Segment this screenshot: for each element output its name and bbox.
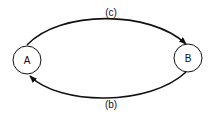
node-b: B <box>174 44 202 72</box>
arrow-a-to-b <box>27 19 186 45</box>
edge-label-b: (b) <box>105 99 117 110</box>
node-a-label: A <box>24 55 31 66</box>
arrow-b-to-a <box>30 72 186 98</box>
edge-label-c: (c) <box>105 7 117 18</box>
state-diagram: (c) (b) A B <box>0 0 214 115</box>
edge-a-to-b: (c) <box>27 7 186 45</box>
node-a: A <box>13 46 41 74</box>
edge-b-to-a: (b) <box>30 72 186 110</box>
node-b-label: B <box>185 53 192 64</box>
